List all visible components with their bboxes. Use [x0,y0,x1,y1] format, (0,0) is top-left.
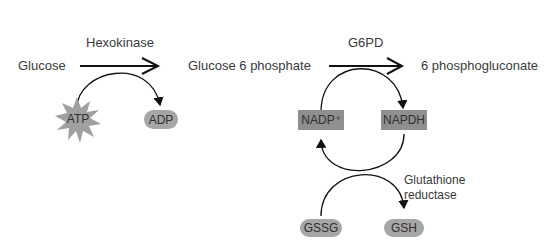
atp-node: ATP [60,111,96,127]
label-g6pd: G6PD [348,35,383,50]
nadp-napdh-curve [321,69,403,112]
gssg-node: GSSG [300,219,342,237]
gssg-gsh-curve [321,175,404,216]
label-reductase: reductase [404,188,457,202]
hexokinase-reaction-arrow [80,58,158,74]
label-glucose: Glucose [18,58,66,73]
label-glutathione: Glutathione [404,173,465,187]
g6pd-reaction-arrow [329,58,402,74]
label-6-phosphogluconate: 6 phosphogluconate [421,58,538,73]
gsh-node: GSH [384,219,424,237]
napdh-nadp-curve [321,134,404,171]
label-hexokinase: Hexokinase [86,35,154,50]
adp-node: ADP [144,110,178,129]
nadp-node: NADP⁺ [298,110,344,130]
label-glucose-6-phosphate: Glucose 6 phosphate [188,58,311,73]
napdh-node: NAPDH [381,110,427,130]
